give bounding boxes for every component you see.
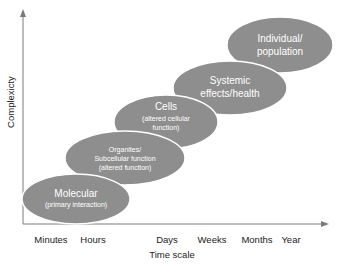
cells-title: Cells: [155, 101, 177, 112]
organites-title: Organites/: [109, 146, 141, 154]
x-tick-minutes: Minutes: [34, 234, 68, 245]
molecular-title: Molecular: [54, 188, 98, 199]
x-tick-year: Year: [281, 234, 300, 245]
cells-subtitle: (altered cellular: [142, 115, 191, 123]
x-tick-days: Days: [156, 234, 178, 245]
y-axis-arrow-icon: [20, 9, 26, 17]
x-tick-weeks: Weeks: [198, 234, 227, 245]
individual-line2: population: [257, 46, 303, 57]
x-axis-arrow-icon: [321, 221, 329, 227]
organites-line2: Subcellular function: [94, 155, 155, 162]
systemic-line2: effects/health: [200, 88, 259, 99]
level-molecular: [22, 174, 130, 224]
x-tick-hours: Hours: [80, 234, 106, 245]
molecular-subtitle: (primary interaction): [45, 201, 107, 209]
complexity-time-diagram: Individual/ population Systemic effects/…: [0, 0, 337, 265]
x-axis-label: Time scale: [149, 249, 195, 260]
x-tick-months: Months: [241, 234, 272, 245]
organites-subtitle: (altered function): [99, 164, 152, 172]
y-axis-label: Complexicty: [5, 76, 16, 128]
systemic-title: Systemic: [210, 75, 251, 86]
cells-subtitle2: function): [153, 124, 180, 132]
individual-title: Individual/: [257, 33, 302, 44]
